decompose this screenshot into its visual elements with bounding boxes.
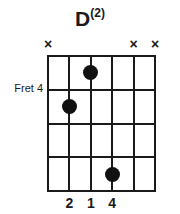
- fret-line-2: [47, 123, 156, 125]
- string-markers-row: ×××: [47, 36, 157, 53]
- nut-line: [47, 55, 156, 57]
- chord-quality-superscript: (2): [90, 6, 105, 20]
- muted-string-x-icon-5: ×: [127, 36, 141, 53]
- finger-dot-string3-fret1: [83, 65, 98, 80]
- finger-dot-string4-fret4: [105, 167, 120, 182]
- fret-line-3: [47, 156, 156, 158]
- finger-numbers-row: 214: [47, 194, 157, 212]
- finger-number-string-2: 2: [61, 194, 77, 212]
- string-line-6: [154, 55, 156, 192]
- muted-string-x-icon-1: ×: [41, 36, 55, 53]
- fretboard-grid: [47, 55, 156, 192]
- string-line-2: [68, 55, 70, 192]
- string-line-5: [133, 55, 135, 192]
- chord-name-title: D(2): [0, 2, 180, 31]
- fret-position-label-wrap: Fret 4: [0, 82, 43, 95]
- chord-root-label: D: [75, 7, 90, 30]
- muted-string-x-icon-6: ×: [148, 36, 162, 53]
- finger-number-string-4: 4: [104, 194, 120, 212]
- fret-position-label: Fret 4: [0, 82, 43, 95]
- fret-line-4: [47, 190, 156, 192]
- chord-diagram: D(2) ××× Fret 4 214: [0, 0, 180, 214]
- finger-dot-string2-fret2: [62, 99, 77, 114]
- fret-line-1: [47, 89, 156, 91]
- string-line-1: [47, 55, 49, 192]
- finger-number-string-3: 1: [83, 194, 99, 212]
